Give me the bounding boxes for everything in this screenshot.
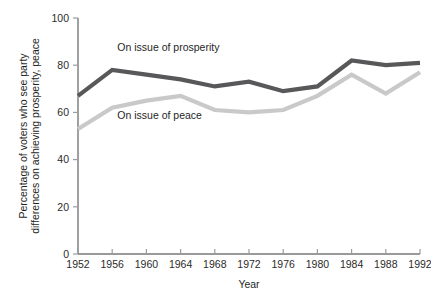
x-tick-label: 1968: [203, 258, 227, 270]
x-tick-label: 1952: [66, 258, 90, 270]
y-axis-ticks: 020406080100: [51, 12, 78, 260]
y-tick-label: 40: [57, 153, 69, 165]
x-tick-label: 1956: [101, 258, 125, 270]
chart-container: 020406080100 195219561960196419681972197…: [0, 0, 431, 302]
series-label-on-issue-of-peace: On issue of peace: [117, 109, 202, 121]
series-line-on-issue-of-prosperity: [78, 60, 420, 95]
x-axis-ticks: 1952195619601964196819721976198019841988…: [66, 249, 431, 270]
x-tick-label: 1992: [408, 258, 431, 270]
x-tick-label: 1972: [237, 258, 261, 270]
series-annotations: On issue of prosperityOn issue of peace: [117, 41, 220, 121]
y-tick-label: 20: [57, 201, 69, 213]
x-tick-label: 1960: [135, 258, 159, 270]
x-tick-label: 1984: [340, 258, 364, 270]
y-axis-title-line-1: Percentage of voters who see party: [17, 53, 29, 219]
x-tick-label: 1964: [169, 258, 193, 270]
y-axis-title: Percentage of voters who see party diffe…: [17, 38, 41, 234]
y-tick-label: 100: [51, 12, 69, 24]
series-label-on-issue-of-prosperity: On issue of prosperity: [117, 41, 220, 53]
y-axis-title-line-2: differences on achieving prosperity, pea…: [29, 38, 41, 234]
y-tick-label: 60: [57, 106, 69, 118]
y-tick-label: 80: [57, 59, 69, 71]
x-tick-label: 1976: [272, 258, 296, 270]
x-tick-label: 1980: [306, 258, 330, 270]
y-axis: 020406080100: [51, 12, 78, 260]
line-chart: 020406080100 195219561960196419681972197…: [0, 0, 431, 302]
x-axis-title: Year: [238, 278, 260, 290]
x-tick-label: 1988: [374, 258, 398, 270]
x-axis: 1952195619601964196819721976198019841988…: [66, 249, 431, 270]
